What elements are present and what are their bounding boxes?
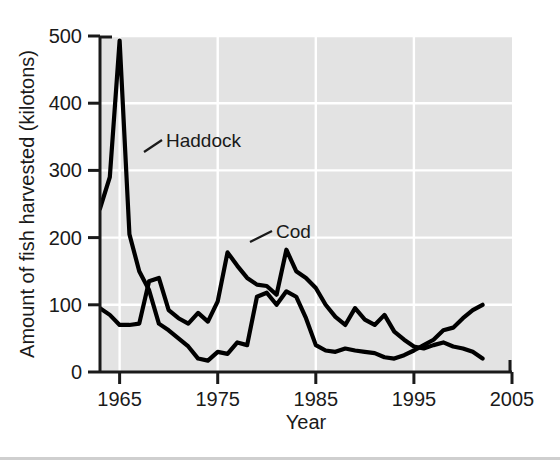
- y-tick-label-400: 400: [49, 92, 82, 114]
- x-tick-label-1985: 1985: [294, 388, 339, 410]
- fish-harvest-line-chart: 0100200300400500 19651975198519952005 Ye…: [0, 0, 560, 460]
- haddock-series-label: Haddock: [166, 130, 241, 151]
- y-tick-label-300: 300: [49, 159, 82, 181]
- x-axis-title: Year: [286, 411, 327, 433]
- cod-series-label: Cod: [276, 221, 311, 242]
- y-tick-label-100: 100: [49, 294, 82, 316]
- y-axis-title: Amount of fish harvested (kilotons): [16, 50, 38, 358]
- x-tick-label-1995: 1995: [392, 388, 437, 410]
- x-tick-label-2005: 2005: [490, 388, 535, 410]
- x-tick-label-1975: 1975: [195, 388, 240, 410]
- y-tick-label-500: 500: [49, 25, 82, 47]
- y-tick-label-200: 200: [49, 227, 82, 249]
- chart-canvas: 0100200300400500 19651975198519952005 Ye…: [0, 0, 560, 460]
- y-tick-label-0: 0: [71, 361, 82, 383]
- x-tick-label-1965: 1965: [97, 388, 142, 410]
